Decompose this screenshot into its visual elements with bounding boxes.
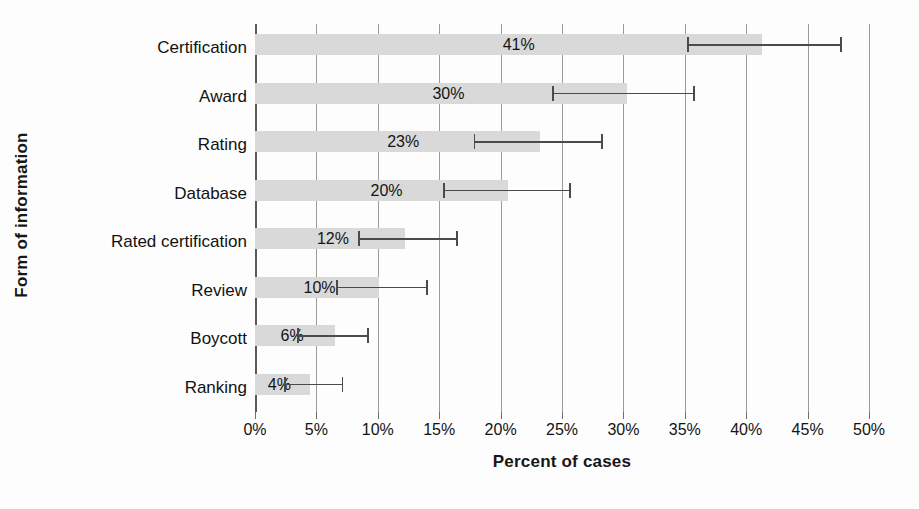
error-bar-cap-lower (284, 377, 286, 392)
x-axis-title: Percent of cases (255, 452, 869, 472)
y-axis-category-label: Database (174, 183, 247, 205)
bar-row: 12% (255, 218, 869, 267)
x-axis-tick (316, 412, 317, 419)
error-bar-line (443, 190, 571, 192)
error-bar-cap-lower (552, 86, 554, 101)
x-axis-tick-label: 25% (546, 421, 578, 439)
error-bar-cap-lower (297, 328, 299, 343)
plot-area: 41%30%23%20%12%10%6%4% (255, 24, 869, 412)
x-axis-tick (623, 412, 624, 419)
x-axis-tick (869, 412, 870, 419)
gridline (869, 24, 870, 412)
y-axis-category-label: Review (191, 280, 247, 302)
bar-row: 4% (255, 364, 869, 413)
bar-value-label: 12% (317, 228, 349, 249)
x-axis-tick-labels: 0%5%10%15%20%25%30%35%40%45%50% (255, 421, 869, 445)
error-bar (443, 189, 571, 192)
x-axis-tick-label: 40% (730, 421, 762, 439)
error-bar-cap-lower (336, 280, 338, 295)
x-axis-tick-label: 5% (305, 421, 328, 439)
x-axis-tick (746, 412, 747, 419)
x-axis-tick (439, 412, 440, 419)
error-bar-line (336, 287, 428, 289)
error-bar-cap-upper (693, 86, 695, 101)
x-axis-tick-label: 10% (362, 421, 394, 439)
y-axis-category-labels: CertificationAwardRatingDatabaseRated ce… (46, 24, 252, 412)
bar-value-label: 10% (303, 277, 335, 298)
error-bar-cap-upper (569, 183, 571, 198)
bar-row: 23% (255, 121, 869, 170)
x-axis-tick-label: 30% (607, 421, 639, 439)
error-bar-line (552, 93, 694, 95)
bar-row: 30% (255, 73, 869, 122)
x-axis-tick (685, 412, 686, 419)
error-bar (358, 237, 457, 240)
y-axis-category-label: Award (199, 86, 247, 108)
x-axis-tick (562, 412, 563, 419)
x-axis-tick (808, 412, 809, 419)
bar-row: 10% (255, 267, 869, 316)
error-bar-line (284, 384, 343, 386)
bar-value-label: 41% (503, 34, 535, 55)
x-axis-tick (501, 412, 502, 419)
bar-value-label: 20% (371, 180, 403, 201)
error-bar (336, 286, 428, 289)
bar-row: 6% (255, 315, 869, 364)
error-bar-cap-lower (687, 37, 689, 52)
error-bar-line (687, 44, 842, 46)
error-bar-cap-upper (367, 328, 369, 343)
x-axis-tick (378, 412, 379, 419)
x-axis-tick-label: 35% (669, 421, 701, 439)
x-axis-tick-label: 0% (243, 421, 266, 439)
error-bar (297, 334, 369, 337)
y-axis-title: Form of information (0, 0, 44, 430)
x-axis-tick (255, 412, 256, 419)
error-bar-cap-lower (358, 231, 360, 246)
error-bar (284, 383, 343, 386)
y-axis-category-label: Boycott (190, 328, 247, 350)
error-bar-cap-lower (443, 183, 445, 198)
error-bar-cap-upper (426, 280, 428, 295)
error-bar-cap-upper (840, 37, 842, 52)
error-bar (552, 92, 694, 95)
y-axis-category-label: Rated certification (111, 231, 247, 253)
error-bar (687, 43, 842, 46)
y-axis-category-label: Ranking (185, 377, 247, 399)
error-bar-cap-upper (456, 231, 458, 246)
x-axis-tick-label: 15% (423, 421, 455, 439)
error-bar-line (474, 141, 603, 143)
x-axis-tick-label: 50% (853, 421, 885, 439)
error-bar-cap-lower (474, 134, 476, 149)
x-axis-tick-label: 20% (485, 421, 517, 439)
x-axis-tick-label: 45% (792, 421, 824, 439)
bar-row: 20% (255, 170, 869, 219)
error-bar-line (358, 238, 457, 240)
bar-value-label: 23% (387, 131, 419, 152)
error-bar (474, 140, 603, 143)
error-bar-cap-upper (342, 377, 344, 392)
error-bar-cap-upper (601, 134, 603, 149)
y-axis-title-text: Form of information (12, 132, 32, 297)
y-axis-category-label: Certification (157, 37, 247, 59)
bar-value-label: 30% (432, 83, 464, 104)
error-bar-line (297, 335, 369, 337)
bar-chart: Form of information CertificationAwardRa… (0, 0, 919, 509)
bar-row: 41% (255, 24, 869, 73)
y-axis-category-label: Rating (198, 134, 247, 156)
